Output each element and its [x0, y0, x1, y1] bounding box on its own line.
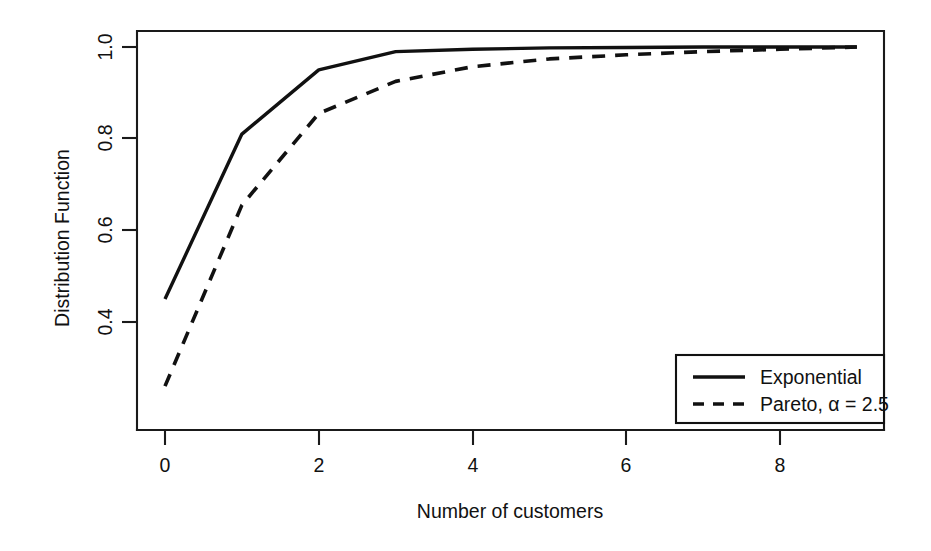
legend-label-exponential: Exponential	[760, 366, 862, 388]
x-axis-ticks	[165, 430, 780, 445]
x-tick-label: 6	[621, 454, 632, 476]
y-tick-label: 0.4	[94, 308, 116, 335]
x-tick-label: 4	[468, 454, 479, 476]
y-axis-tick-labels: 1.0 0.8 0.6 0.4	[94, 33, 116, 335]
y-tick-label: 0.8	[94, 124, 116, 151]
distribution-function-line-chart: 1.0 0.8 0.6 0.4 Distribution Function 0 …	[0, 0, 931, 551]
x-tick-label: 2	[314, 454, 325, 476]
y-tick-label: 1.0	[94, 33, 116, 60]
x-axis-tick-labels: 0 2 4 6 8	[160, 454, 786, 476]
y-axis-ticks	[122, 47, 137, 322]
x-axis-title: Number of customers	[417, 500, 604, 522]
y-axis-title: Distribution Function	[51, 149, 73, 327]
x-tick-label: 0	[160, 454, 171, 476]
chart-figure: 1.0 0.8 0.6 0.4 Distribution Function 0 …	[0, 0, 931, 551]
legend-label-pareto: Pareto, α = 2.5	[760, 393, 889, 415]
legend: Exponential Pareto, α = 2.5	[676, 355, 889, 423]
x-tick-label: 8	[775, 454, 786, 476]
y-tick-label: 0.6	[94, 216, 116, 243]
series-line-pareto	[165, 47, 857, 386]
